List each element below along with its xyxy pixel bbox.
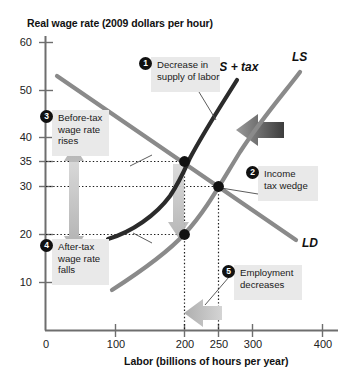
- callout-3-line-1: Before-tax: [58, 112, 105, 124]
- curve-label-ld: LD: [302, 236, 318, 250]
- y-tick-label-20: 20: [6, 228, 32, 240]
- y-tick-label-60: 60: [6, 36, 32, 48]
- y-tick-label-50: 50: [6, 84, 32, 96]
- x-tick-label-250: 250: [204, 338, 234, 350]
- x-axis-title: Labor (billions of hours per year): [124, 355, 289, 367]
- callout-box-4: After-tax wage rate falls: [52, 239, 109, 285]
- employment-decreases-arrow: [184, 299, 222, 327]
- callout-2-line-1: Income: [264, 168, 314, 180]
- callout-badge-4: 4: [40, 239, 53, 252]
- callout-box-5: Employment decreases: [234, 265, 302, 300]
- x-tick-label-0: 0: [31, 338, 61, 350]
- y-tick-label-30: 30: [6, 180, 32, 192]
- x-tick-label-300: 300: [238, 338, 268, 350]
- marker-after-tax-equilibrium: [179, 229, 190, 240]
- tax-wedge-arrow: [168, 164, 189, 238]
- callout-box-1: Decrease in supply of labor: [151, 57, 220, 92]
- callout-4-line-2: wage rate: [58, 253, 105, 265]
- callout-badge-2: 2: [246, 166, 259, 179]
- callout-box-2: Income tax wedge: [258, 166, 318, 201]
- callout-badge-3: 3: [40, 110, 53, 123]
- y-tick-label-40: 40: [6, 131, 32, 143]
- callout-4-line-1: After-tax: [58, 241, 105, 253]
- x-tick-label-200: 200: [170, 338, 200, 350]
- curve-label-ls: LS: [292, 50, 307, 64]
- marker-no-tax-equilibrium: [213, 181, 224, 192]
- y-axis-title: Real wage rate (2009 dollars per hour): [27, 17, 213, 29]
- x-tick-label-400: 400: [308, 338, 338, 350]
- callout-badge-1: 1: [139, 57, 152, 70]
- y-tick-label-35: 35: [6, 155, 32, 167]
- y-tick-label-10: 10: [6, 276, 32, 288]
- chart-canvas: Real wage rate (2009 dollars per hour) L…: [0, 0, 350, 376]
- callout-5-line-2: decreases: [240, 279, 298, 291]
- callout-5-line-1: Employment: [240, 267, 298, 279]
- supply-shift-arrow: [236, 114, 284, 146]
- x-tick-label-100: 100: [101, 338, 131, 350]
- callout-3-line-3: rises: [58, 135, 105, 147]
- callout-box-3: Before-tax wage rate rises: [52, 110, 109, 156]
- curve-ls-plus-tax: [108, 80, 237, 239]
- callout-4-line-3: falls: [58, 264, 105, 276]
- marker-before-tax-equilibrium: [179, 156, 190, 167]
- callout-badge-5: 5: [222, 265, 235, 278]
- callout-2-line-2: tax wedge: [264, 180, 314, 192]
- callout-3-line-2: wage rate: [58, 124, 105, 136]
- callout-1-line-2: supply of labor: [157, 71, 216, 83]
- callout-1-line-1: Decrease in: [157, 59, 216, 71]
